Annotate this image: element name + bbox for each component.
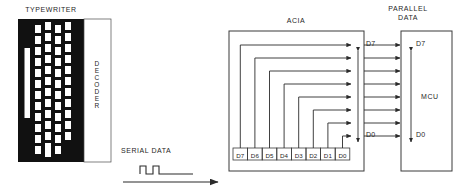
acia-bit-d5: D5 bbox=[262, 152, 277, 159]
acia-bus-top-label: D7 bbox=[366, 40, 375, 47]
keyboard-label: K E Y B O A R D bbox=[2, 62, 14, 118]
parallel-data-label-line2: DATA bbox=[372, 14, 444, 23]
serial-data-label: SERIAL DATA bbox=[121, 147, 171, 156]
acia-bit-d3: D3 bbox=[291, 152, 306, 159]
acia-bit-d1: D1 bbox=[321, 152, 336, 159]
acia-bit-d2: D2 bbox=[306, 152, 321, 159]
acia-box bbox=[229, 31, 364, 171]
mcu-bus-top-label: D7 bbox=[416, 40, 425, 47]
serial-data-group bbox=[123, 166, 218, 182]
parallel-data-label-line1: PARALLEL bbox=[372, 5, 444, 14]
serial-waveform bbox=[140, 166, 193, 174]
typewriter-caption: TYPEWRITER bbox=[18, 6, 84, 15]
mcu-label: MCU bbox=[421, 93, 439, 102]
acia-bit-d6: D6 bbox=[248, 152, 263, 159]
acia-group bbox=[229, 31, 364, 171]
acia-bit-d0: D0 bbox=[335, 152, 350, 159]
keyboard-spacebar bbox=[25, 48, 31, 118]
acia-bit-d4: D4 bbox=[277, 152, 292, 159]
parallel-bus-group bbox=[364, 45, 400, 136]
acia-label: ACIA bbox=[266, 17, 326, 26]
mcu-bus-bottom-label: D0 bbox=[416, 131, 425, 138]
diagram-canvas: TYPEWRITER K E Y B O A R D D E C O D E R… bbox=[0, 0, 469, 192]
acia-bit-routing bbox=[240, 45, 351, 148]
decoder-label: D E C O D E R bbox=[91, 60, 103, 109]
acia-bus-bottom-label: D0 bbox=[366, 131, 375, 138]
diagram-svg bbox=[0, 0, 469, 192]
acia-bit-d7: D7 bbox=[233, 152, 248, 159]
